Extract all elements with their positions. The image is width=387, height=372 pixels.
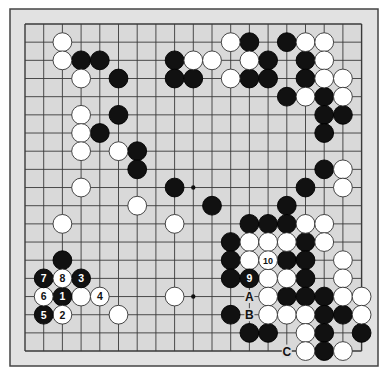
black-stone xyxy=(277,214,296,233)
white-stone xyxy=(165,214,184,233)
white-stone xyxy=(165,287,184,306)
white-stone xyxy=(296,87,315,106)
black-stone xyxy=(277,87,296,106)
black-stone xyxy=(128,142,147,161)
black-stone xyxy=(315,105,334,124)
white-stone xyxy=(296,33,315,52)
letter-label-c: C xyxy=(282,345,291,359)
black-stone xyxy=(221,305,240,324)
white-stone xyxy=(72,105,91,124)
white-stone xyxy=(128,196,147,215)
white-stone xyxy=(334,87,353,106)
move-number-label: 5 xyxy=(41,309,47,321)
white-stone xyxy=(334,69,353,88)
black-stone xyxy=(259,69,278,88)
white-stone xyxy=(53,33,72,52)
white-stone xyxy=(352,287,371,306)
white-stone xyxy=(240,251,259,270)
move-number-label: 3 xyxy=(78,272,84,284)
black-stone xyxy=(296,287,315,306)
black-stone xyxy=(221,233,240,252)
black-stone xyxy=(315,342,334,361)
white-stone xyxy=(53,214,72,233)
white-stone xyxy=(277,269,296,288)
black-stone xyxy=(109,69,128,88)
black-stone xyxy=(240,69,259,88)
move-number-label: 9 xyxy=(246,272,252,284)
white-stone xyxy=(352,305,371,324)
black-stone xyxy=(165,69,184,88)
black-stone xyxy=(240,323,259,342)
black-stone xyxy=(277,33,296,52)
white-stone xyxy=(221,69,240,88)
move-number-label: 1 xyxy=(59,290,65,302)
white-stone xyxy=(315,33,334,52)
white-stone xyxy=(53,51,72,70)
black-stone xyxy=(296,269,315,288)
star-point-icon xyxy=(191,294,195,298)
black-stone xyxy=(109,105,128,124)
white-stone xyxy=(296,323,315,342)
white-stone xyxy=(72,142,91,161)
white-stone xyxy=(334,269,353,288)
letter-label-b: B xyxy=(245,308,254,322)
black-stone xyxy=(315,323,334,342)
black-stone xyxy=(296,51,315,70)
white-stone xyxy=(72,124,91,143)
move-number-label: 2 xyxy=(59,309,65,321)
white-stone xyxy=(277,233,296,252)
move-number-label: 10 xyxy=(263,256,273,266)
black-stone xyxy=(315,305,334,324)
black-stone xyxy=(221,251,240,270)
white-stone xyxy=(72,287,91,306)
black-stone xyxy=(315,124,334,143)
black-stone xyxy=(334,305,353,324)
white-stone xyxy=(109,305,128,324)
white-stone xyxy=(315,51,334,70)
white-stone xyxy=(296,214,315,233)
white-stone xyxy=(203,51,222,70)
black-stone xyxy=(277,287,296,306)
black-stone xyxy=(221,269,240,288)
black-stone xyxy=(240,214,259,233)
go-board: 12345678910 ABC xyxy=(0,0,387,372)
white-stone xyxy=(259,305,278,324)
black-stone xyxy=(315,287,334,306)
black-stone xyxy=(277,251,296,270)
black-stone xyxy=(203,196,222,215)
black-stone xyxy=(90,124,109,143)
black-stone xyxy=(296,233,315,252)
black-stone xyxy=(240,33,259,52)
black-stone xyxy=(334,105,353,124)
black-stone xyxy=(277,196,296,215)
black-stone xyxy=(259,51,278,70)
white-stone xyxy=(334,251,353,270)
white-stone xyxy=(315,233,334,252)
black-stone xyxy=(352,323,371,342)
white-stone xyxy=(184,51,203,70)
white-stone xyxy=(334,287,353,306)
move-number-label: 6 xyxy=(41,290,47,302)
letter-label-a: A xyxy=(245,290,254,304)
black-stone xyxy=(72,51,91,70)
black-stone xyxy=(165,178,184,197)
black-stone xyxy=(315,160,334,179)
white-stone xyxy=(315,214,334,233)
black-stone xyxy=(165,51,184,70)
white-stone xyxy=(296,305,315,324)
black-stone xyxy=(184,69,203,88)
white-stone xyxy=(109,142,128,161)
white-stone xyxy=(334,178,353,197)
white-stone xyxy=(334,342,353,361)
white-stone xyxy=(240,233,259,252)
black-stone xyxy=(296,178,315,197)
white-stone xyxy=(296,342,315,361)
white-stone xyxy=(315,69,334,88)
white-stone xyxy=(277,305,296,324)
move-number-label: 7 xyxy=(41,272,47,284)
black-stone xyxy=(128,160,147,179)
black-stone xyxy=(259,214,278,233)
black-stone xyxy=(296,69,315,88)
black-stone xyxy=(296,251,315,270)
black-stone xyxy=(259,323,278,342)
